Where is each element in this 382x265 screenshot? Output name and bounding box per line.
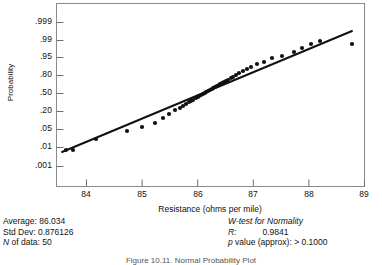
x-tick-label: 86 bbox=[183, 190, 213, 199]
n-of-data-label: of data: bbox=[9, 237, 40, 247]
average-row: Average: 86.034 bbox=[3, 216, 73, 227]
figure-caption: Figure 10.11. Normal Probability Plot bbox=[0, 256, 382, 265]
x-tick-label: 87 bbox=[238, 190, 268, 199]
x-tick-label: 88 bbox=[294, 190, 324, 199]
r-value: 0.9841 bbox=[237, 227, 289, 238]
x-axis-title: Resistance (ohms per mile) bbox=[56, 204, 364, 214]
stddev-label: Std Dev: bbox=[3, 227, 36, 237]
p-value-row: p value (approx): > 0.1000 bbox=[228, 237, 328, 248]
p-value-value: > 0.1000 bbox=[294, 237, 327, 247]
average-value: 86.034 bbox=[39, 216, 65, 226]
n-of-data-row: N of data: 50 bbox=[3, 237, 73, 248]
r-row: R:0.9841 bbox=[228, 227, 328, 238]
normal-probability-plot-figure: .999 .99 .95 .80 .50 .20 .05 .01 .001 84… bbox=[0, 0, 382, 265]
average-label: Average: bbox=[3, 216, 37, 226]
w-test-title: W-test for Normality bbox=[228, 216, 328, 227]
r-label: R: bbox=[228, 227, 237, 237]
stddev-row: Std Dev: 0.876126 bbox=[3, 227, 73, 238]
summary-statistics-left: Average: 86.034 Std Dev: 0.876126 N of d… bbox=[3, 216, 73, 248]
p-value-label: value (approx): bbox=[233, 237, 292, 247]
x-tick-label: 84 bbox=[71, 190, 101, 199]
plot-area: .999 .99 .95 .80 .50 .20 .05 .01 .001 84… bbox=[0, 0, 382, 200]
x-tick-label: 89 bbox=[349, 190, 379, 199]
x-tick-label: 85 bbox=[127, 190, 157, 199]
stddev-value: 0.876126 bbox=[38, 227, 73, 237]
y-axis-title: Probability bbox=[6, 47, 15, 119]
summary-statistics-right: W-test for Normality R:0.9841 p value (a… bbox=[228, 216, 328, 248]
n-of-data-value: 50 bbox=[42, 237, 51, 247]
x-axis-tick-labels: 84 85 86 87 88 89 bbox=[0, 0, 382, 200]
